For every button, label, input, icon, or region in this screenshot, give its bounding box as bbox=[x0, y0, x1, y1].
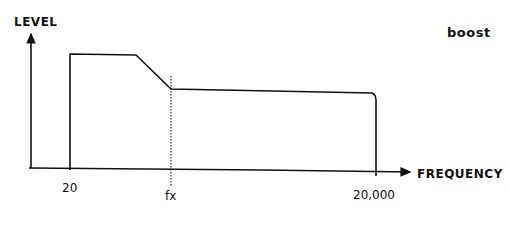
x-axis-right bbox=[263, 170, 410, 172]
x-axis-label: FREQUENCY bbox=[417, 167, 503, 181]
x-tick-20: 20 bbox=[62, 181, 77, 195]
x-tick-20000: 20,000 bbox=[353, 188, 395, 202]
x-axis bbox=[29, 168, 263, 170]
eq-diagram: LEVEL FREQUENCY 20 fx 20,000 boost bbox=[0, 0, 508, 230]
boost-label: boost bbox=[447, 25, 491, 40]
response-curve bbox=[70, 54, 376, 176]
y-axis-label: LEVEL bbox=[14, 15, 57, 29]
x-tick-fx: fx bbox=[165, 189, 176, 203]
